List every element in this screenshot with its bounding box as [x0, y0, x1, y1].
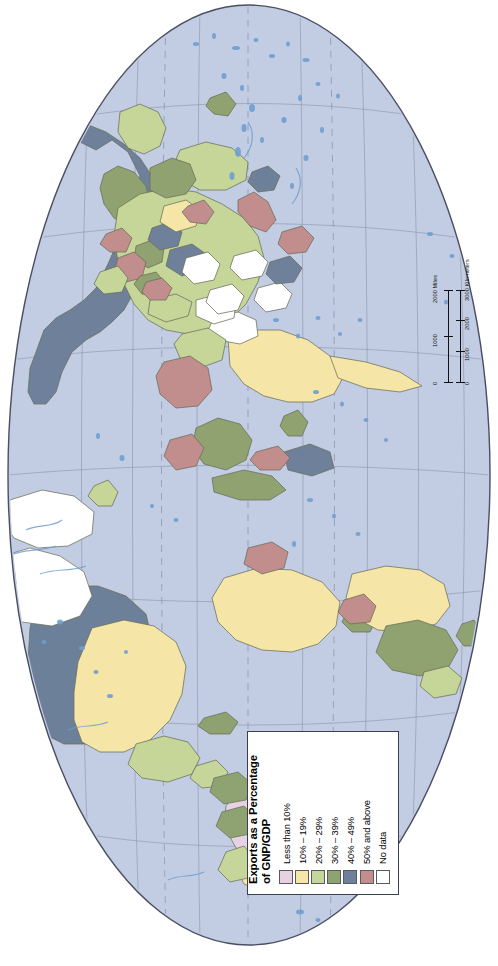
map-legend: Exports as a Percentage of GNP/GDP Less … [247, 731, 399, 895]
legend-title-line1: Exports as a Percentage [247, 732, 260, 884]
legend-swatch-icon [376, 870, 390, 884]
legend-swatch-icon [360, 870, 374, 884]
legend-rotated-content: Exports as a Percentage of GNP/GDP Less … [242, 726, 394, 890]
legend-items: Less than 10% 10% – 19% 20% – 29% 30% – … [278, 732, 391, 884]
legend-item-50-and-above: 50% and above [358, 732, 374, 884]
legend-swatch-icon [279, 870, 293, 884]
legend-item-no-data: No data [375, 732, 391, 884]
scale-km-tick-1: 1000 [464, 348, 470, 361]
scale-bar-inner: 0 1000 2000 Miles 0 1000 2000 3000 Kilom… [439, 257, 479, 393]
legend-swatch-icon [343, 870, 357, 884]
scale-miles-row: 0 1000 2000 Miles [439, 257, 456, 393]
legend-item-label: 10% – 19% [297, 817, 308, 864]
legend-title: Exports as a Percentage of GNP/GDP [247, 732, 273, 884]
scale-km-tick-2: 2000 [464, 317, 470, 330]
scale-km-tick-3: 3000 Kilometers [464, 259, 470, 301]
legend-item-label: 50% and above [361, 800, 372, 864]
legend-item-20-29: 20% – 29% [310, 732, 326, 884]
legend-item-label: 20% – 29% [313, 817, 324, 864]
legend-swatch-icon [295, 870, 309, 884]
legend-swatch-icon [311, 870, 325, 884]
scale-miles-tick-2: 2000 Miles [432, 275, 438, 303]
legend-item-30-39: 30% – 39% [326, 732, 342, 884]
legend-swatch-icon [327, 870, 341, 884]
scale-miles-tick-1: 1000 [432, 334, 438, 347]
scale-miles-tick-0: 0 [432, 382, 438, 385]
scale-km-tick-0: 0 [464, 382, 470, 385]
legend-item-less-than-10: Less than 10% [278, 732, 294, 884]
scale-bar: 0 1000 2000 Miles 0 1000 2000 3000 Kilom… [427, 258, 489, 390]
legend-item-40-49: 40% – 49% [342, 732, 358, 884]
legend-item-label: Less than 10% [281, 803, 292, 864]
map-page: 0 1000 2000 Miles 0 1000 2000 3000 Kilom… [0, 0, 498, 966]
legend-title-line2: of GNP/GDP [260, 732, 273, 884]
scale-km-row: 0 1000 2000 3000 Kilometers [460, 257, 477, 393]
legend-item-10-19: 10% – 19% [294, 732, 310, 884]
legend-item-label: 40% – 49% [345, 817, 356, 864]
legend-item-label: 30% – 39% [329, 817, 340, 864]
legend-item-label: No data [377, 832, 388, 864]
